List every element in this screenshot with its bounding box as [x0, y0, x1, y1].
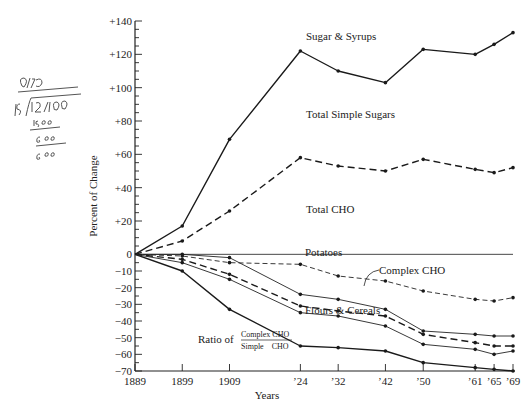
y-tick-label: −30 [115, 298, 133, 310]
label-total-cho: Total CHO [306, 203, 354, 215]
label-ratio-denominator: Simple CHO [241, 342, 289, 351]
x-tick-label: ’24 [293, 375, 308, 387]
data-point-flours-cereals [384, 324, 388, 328]
data-point-total-simple-sugars [228, 209, 232, 213]
data-point-flours-cereals [492, 353, 496, 357]
label-flours-cereals: Flours & Cereals [305, 304, 380, 316]
label-complex-cho: Complex CHO [379, 264, 445, 276]
data-point-flours-cereals [299, 311, 303, 315]
label-ratio-numerator: Complex CHO [241, 330, 289, 339]
data-point-complex-cho [180, 258, 184, 262]
series-line-total-cho [135, 254, 513, 301]
x-axis-title: Years [255, 389, 280, 401]
data-point-sugar-syrups [180, 224, 184, 228]
data-point-sugar-syrups [336, 69, 340, 73]
data-point-potatoes [336, 298, 340, 302]
data-point-total-cho [336, 274, 340, 278]
label-ratio-of: Ratio of [198, 333, 234, 345]
data-point-total-cho [511, 296, 515, 300]
series-lines [135, 31, 515, 373]
data-point-potatoes [384, 308, 388, 312]
y-tick-label: +60 [115, 148, 133, 160]
data-point-potatoes [421, 329, 425, 333]
y-tick-label: 0 [127, 248, 133, 260]
handwriting-dividend [32, 101, 67, 112]
data-point-sugar-syrups [421, 48, 425, 52]
handwriting-digit [20, 78, 26, 87]
x-tick-label: 1889 [124, 375, 147, 387]
y-tick-label: +140 [109, 15, 132, 27]
series-line-sugar-syrups [135, 33, 513, 255]
handwriting-remainder [37, 137, 54, 142]
y-tick-label: +100 [109, 82, 132, 94]
y-tick-label: +120 [109, 48, 132, 60]
data-point-flours-cereals [473, 348, 477, 352]
data-point-potatoes [492, 334, 496, 338]
data-point-total-cho [299, 263, 303, 267]
y-tick-label: −10 [115, 265, 133, 277]
label-total-simple-sugars: Total Simple Sugars [306, 108, 395, 120]
data-point-ratio-of-complex-cho-simple-cho [336, 346, 340, 350]
handwriting-result [37, 153, 54, 159]
y-tick-label: −60 [115, 348, 133, 360]
data-point-potatoes [473, 333, 477, 337]
handwriting-digit [27, 78, 42, 88]
data-point-ratio-of-complex-cho-simple-cho [421, 361, 425, 365]
data-point-total-cho [492, 299, 496, 303]
axes: +140+120+100+80+60+40+200−10−20−30−40−50… [109, 15, 521, 387]
data-point-total-simple-sugars [492, 171, 496, 175]
data-point-complex-cho [228, 273, 232, 277]
data-point-complex-cho [421, 333, 425, 337]
handwriting-underline [36, 143, 66, 146]
data-point-sugar-syrups [473, 53, 477, 57]
data-point-total-cho [384, 279, 388, 283]
series-labels: Sugar & Syrups Total Simple Sugars Total… [198, 30, 445, 351]
data-point-complex-cho [299, 304, 303, 308]
data-point-ratio-of-complex-cho-simple-cho [492, 368, 496, 372]
data-point-complex-cho [384, 314, 388, 318]
data-point-complex-cho [492, 344, 496, 348]
handwriting-subtraction [34, 120, 51, 127]
y-tick-label: −20 [115, 282, 133, 294]
data-point-sugar-syrups [299, 49, 303, 53]
x-tick-label: 1909 [219, 375, 242, 387]
data-point-total-cho [421, 289, 425, 293]
x-tick-label: ’61 [468, 375, 483, 387]
data-point-flours-cereals [511, 349, 515, 353]
complex-cho-leader-line [364, 270, 379, 286]
data-point-potatoes [180, 253, 184, 257]
data-point-total-simple-sugars [473, 168, 477, 172]
data-point-total-simple-sugars [336, 164, 340, 168]
data-point-total-simple-sugars [384, 169, 388, 173]
data-point-sugar-syrups [492, 43, 496, 47]
data-point-sugar-syrups [384, 81, 388, 85]
data-point-total-simple-sugars [511, 166, 515, 170]
data-point-total-simple-sugars [180, 239, 184, 243]
y-tick-label: −50 [115, 332, 133, 344]
data-point-potatoes [228, 256, 232, 260]
line-chart: +140+120+100+80+60+40+200−10−20−30−40−50… [0, 0, 530, 417]
data-point-total-cho [228, 261, 232, 265]
data-point-potatoes [511, 334, 515, 338]
data-point-flours-cereals [421, 343, 425, 347]
label-potatoes: Potatoes [305, 246, 342, 258]
series-line-potatoes [135, 254, 513, 336]
handwriting-divisor [15, 104, 21, 116]
x-tick-label: ’42 [378, 375, 393, 387]
x-tick-label: ’50 [416, 375, 431, 387]
data-point-sugar-syrups [511, 31, 515, 35]
x-tick-label: ’69 [506, 375, 521, 387]
data-point-complex-cho [473, 341, 477, 345]
x-tick-label: ’65 [487, 375, 502, 387]
data-point-ratio-of-complex-cho-simple-cho [299, 344, 303, 348]
data-point-total-cho [473, 298, 477, 302]
y-tick-label: +80 [115, 115, 133, 127]
series-line-complex-cho [135, 254, 513, 346]
data-point-total-simple-sugars [421, 158, 425, 162]
handwriting-underline [30, 127, 60, 130]
data-point-flours-cereals [228, 278, 232, 282]
data-point-ratio-of-complex-cho-simple-cho [384, 349, 388, 353]
label-sugar-syrups: Sugar & Syrups [306, 30, 376, 42]
x-tick-label: ’32 [331, 375, 346, 387]
data-point-total-simple-sugars [299, 156, 303, 160]
